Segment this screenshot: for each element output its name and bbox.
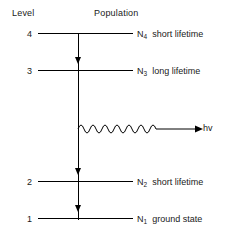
energy-level-row-1: 1 N1 ground state <box>0 212 225 226</box>
decay-arrowhead-to-level-3 <box>75 57 81 64</box>
photon-emission-wave <box>70 115 225 143</box>
column-header-level: Level <box>12 8 35 18</box>
population-symbol-2: N <box>137 177 144 187</box>
level-description-2: short lifetime <box>152 177 203 187</box>
wavy-arrow-right-icon <box>70 115 225 143</box>
level-line-2 <box>38 181 133 182</box>
decay-arrowhead-to-level-1 <box>75 205 81 212</box>
energy-level-row-2: 2 N2 short lifetime <box>0 175 225 189</box>
photon-energy-label: hv <box>203 122 213 134</box>
level-description-4: short lifetime <box>152 29 203 39</box>
level-number-3: 3 <box>18 64 32 78</box>
energy-level-row-4: 4 N4 short lifetime <box>0 27 225 41</box>
population-subscript-4: 4 <box>144 33 148 40</box>
decay-arrowhead-to-level-2 <box>75 168 81 175</box>
level-line-3 <box>38 70 133 71</box>
level-number-2: 2 <box>18 175 32 189</box>
level-line-4 <box>38 33 133 34</box>
population-symbol-4: N <box>137 29 144 39</box>
population-subscript-1: 1 <box>144 218 148 225</box>
population-symbol-1: N <box>137 214 144 224</box>
energy-level-diagram: Level Population 4 N4 short lifetime 3 N… <box>0 0 225 241</box>
level-label-4: N4 short lifetime <box>137 27 203 42</box>
level-description-1: ground state <box>152 214 202 224</box>
level-label-3: N3 long lifetime <box>137 64 200 79</box>
energy-level-row-3: 3 N3 long lifetime <box>0 64 225 78</box>
population-subscript-2: 2 <box>144 181 148 188</box>
level-line-1 <box>38 218 133 219</box>
level-description-3: long lifetime <box>152 66 200 76</box>
level-number-4: 4 <box>18 27 32 41</box>
population-subscript-3: 3 <box>144 70 148 77</box>
population-symbol-3: N <box>137 66 144 76</box>
level-number-1: 1 <box>18 212 32 226</box>
column-header-population: Population <box>94 8 139 18</box>
level-label-2: N2 short lifetime <box>137 175 203 190</box>
level-label-1: N1 ground state <box>137 212 202 227</box>
